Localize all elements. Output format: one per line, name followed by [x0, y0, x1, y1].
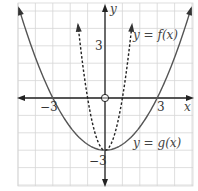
- f-curve-label: y = f(x): [132, 28, 178, 42]
- y-tick-neg3-label: −3: [89, 154, 107, 168]
- y-axis-label: y: [109, 2, 117, 16]
- x-tick-pos3-label: 3: [157, 100, 165, 114]
- x-axis-label: x: [184, 100, 191, 114]
- g-curve-label: y = g(x): [132, 136, 182, 150]
- x-tick-neg3-label: −3: [40, 100, 58, 114]
- y-axis-up-arrow-icon: [102, 4, 108, 12]
- y-tick-pos3-label: 3: [95, 39, 103, 53]
- function-graph: x y −3 3 3 −3 y = f(x) y = g(x): [0, 0, 198, 191]
